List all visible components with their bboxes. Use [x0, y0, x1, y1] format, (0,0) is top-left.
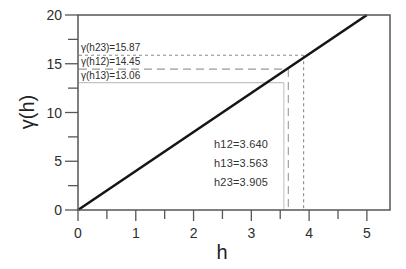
- x-axis-title: h: [192, 240, 252, 264]
- x-axis-tick-label: 0: [74, 225, 82, 241]
- x-axis-tick-label: 1: [132, 225, 140, 241]
- ref-label-h23: γ(h23)=15.87: [81, 42, 141, 53]
- ref-label-h13: γ(h13)=13.06: [81, 70, 141, 81]
- y-axis-tick-label: 15: [46, 56, 62, 72]
- x-axis-tick-label: 2: [190, 225, 198, 241]
- variogram-figure: γ(h23)=15.87γ(h12)=14.45γ(h13)=13.060123…: [0, 0, 406, 269]
- x-axis-tick-label: 3: [247, 225, 255, 241]
- y-axis-tick-label: 5: [54, 153, 62, 169]
- annotation-h13: h13=3.563: [214, 154, 268, 173]
- y-axis-tick-label: 20: [46, 7, 62, 23]
- annotation-h12: h12=3.640: [214, 135, 268, 154]
- x-axis-tick-label: 5: [363, 225, 371, 241]
- plot-svg: γ(h23)=15.87γ(h12)=14.45γ(h13)=13.060123…: [0, 0, 406, 269]
- ref-label-h12: γ(h12)=14.45: [81, 56, 141, 67]
- distance-annotations: h12=3.640 h13=3.563 h23=3.905: [214, 135, 268, 192]
- annotation-h23: h23=3.905: [214, 173, 268, 192]
- y-axis-tick-label: 0: [54, 202, 62, 218]
- x-axis-tick-label: 4: [305, 225, 313, 241]
- y-axis-title: γ(h): [16, 52, 38, 172]
- y-axis-tick-label: 10: [46, 105, 62, 121]
